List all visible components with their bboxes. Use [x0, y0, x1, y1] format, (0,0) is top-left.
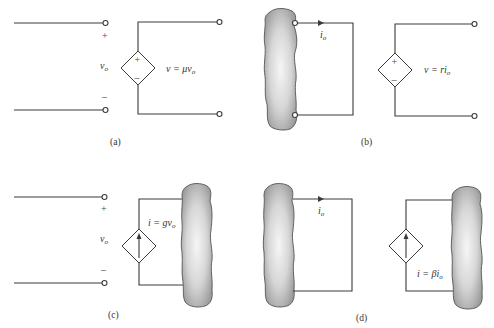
source-plus: +	[135, 54, 141, 65]
terminal	[102, 195, 107, 200]
source-minus: –	[391, 74, 398, 85]
terminal	[217, 20, 222, 25]
control-current-label: io	[320, 29, 327, 42]
control-current-label: io	[318, 205, 325, 218]
output-wire-top	[395, 24, 472, 53]
plus-sign: +	[101, 203, 107, 214]
source-equation: i = gvo	[148, 217, 176, 230]
network-blob-icon	[263, 184, 294, 308]
source-equation: v = μvo	[166, 63, 196, 76]
terminal	[472, 114, 477, 119]
panel-a: + vo – + – v = μvo (a)	[14, 20, 222, 149]
network-blob-icon	[451, 187, 482, 310]
terminal	[472, 22, 477, 27]
plus-sign: +	[102, 30, 108, 41]
output-wire-top	[138, 22, 217, 51]
current-arrow-icon	[318, 196, 324, 202]
output-wire-bottom	[395, 87, 472, 116]
caption-a: (a)	[110, 137, 121, 148]
output-wire-bottom	[139, 263, 183, 285]
terminal	[103, 108, 108, 113]
source-equation: v = rio	[424, 64, 451, 77]
output-wire-top	[406, 200, 453, 229]
terminal	[102, 281, 107, 286]
panel-c: + vo – i = gvo (c)	[14, 184, 212, 322]
current-arrow-icon	[318, 20, 324, 26]
caption-b: (b)	[361, 137, 372, 148]
control-voltage-label: vo	[100, 60, 108, 73]
minus-sign: –	[101, 91, 108, 102]
caption-d: (d)	[356, 313, 367, 324]
source-plus: +	[392, 56, 398, 67]
output-wire-bottom	[138, 85, 217, 114]
terminal	[217, 112, 222, 117]
network-blob-icon	[181, 184, 212, 308]
source-minus: –	[134, 72, 141, 83]
control-voltage-label: vo	[100, 233, 108, 246]
network-blob-icon	[264, 9, 297, 131]
terminal	[293, 21, 298, 26]
panel-d: io i = βio (d)	[263, 184, 482, 325]
terminal	[293, 113, 298, 118]
terminal	[103, 21, 108, 26]
dependent-sources-diagram: + vo – + – v = μvo (a) io + – v = rio (b…	[0, 0, 494, 328]
source-equation: i = βio	[417, 268, 443, 281]
panel-b: io + – v = rio (b)	[264, 9, 477, 149]
minus-sign: –	[100, 264, 107, 275]
caption-c: (c)	[108, 310, 119, 321]
